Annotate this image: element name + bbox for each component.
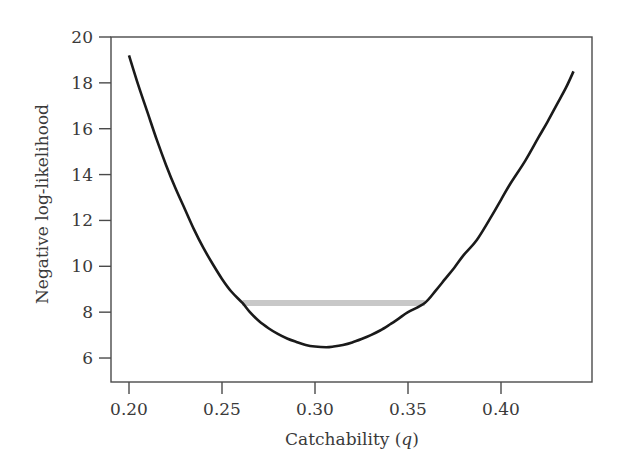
x-axis-title-main: Catchability (: [285, 429, 401, 449]
x-tick-label: 0.35: [389, 399, 427, 419]
x-axis-title-variable: q: [401, 429, 412, 449]
likelihood-profile-chart: 68101214161820 0.200.250.300.350.40 Nega…: [0, 0, 621, 470]
y-tick-label: 14: [71, 165, 93, 185]
x-tick-label: 0.30: [296, 399, 334, 419]
x-axis-title: Catchability (q): [285, 429, 419, 449]
x-tick-label: 0.40: [482, 399, 520, 419]
plot-border: [111, 37, 592, 382]
y-tick-label: 8: [82, 302, 93, 322]
y-tick-label: 6: [82, 348, 93, 368]
y-tick-label: 12: [71, 210, 93, 230]
y-axis: 68101214161820: [71, 27, 111, 368]
x-tick-label: 0.25: [203, 399, 241, 419]
x-axis: 0.200.250.300.350.40: [110, 382, 520, 419]
y-tick-label: 20: [71, 27, 93, 47]
plot-frame: [111, 37, 592, 382]
y-tick-label: 16: [71, 119, 93, 139]
y-tick-label: 10: [71, 256, 93, 276]
y-axis-title: Negative log-likelihood: [32, 104, 52, 304]
y-tick-label: 18: [71, 73, 93, 93]
x-tick-label: 0.20: [110, 399, 148, 419]
x-axis-title-close: ): [412, 429, 419, 449]
